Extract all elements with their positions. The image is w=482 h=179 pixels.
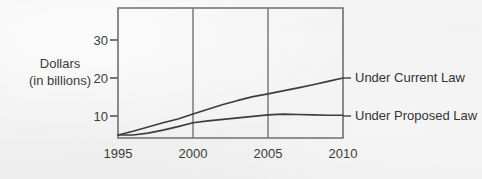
series-label-current-law-group: Under Current Law [343,70,465,85]
x-tick-label-2005: 2005 [254,146,283,161]
x-tick-label-2000: 2000 [179,146,208,161]
chart-canvas: Dollars (in billions) 30 20 10 [0,0,482,179]
y-tick-marks [110,40,118,116]
series-label-proposed-law: Under Proposed Law [355,108,478,123]
x-tick-label-1995: 1995 [104,146,133,161]
series-line-under-proposed-law [118,114,343,135]
series-label-current-law: Under Current Law [355,70,465,85]
x-tick-labels: 1995 2000 2005 2010 [104,146,358,161]
y-tick-label-30: 30 [94,33,108,48]
y-tick-label-10: 10 [94,109,108,124]
y-axis-label-line2: (in billions) [29,73,91,88]
series-line-under-current-law [118,78,343,135]
line-chart-figure: Dollars (in billions) 30 20 10 [0,0,482,179]
y-tick-label-20: 20 [94,71,108,86]
y-tick-labels: 30 20 10 [94,33,108,124]
series-label-proposed-law-group: Under Proposed Law [343,108,478,123]
y-axis-label: Dollars (in billions) [29,56,91,88]
x-tick-label-2010: 2010 [329,146,358,161]
y-axis-label-line1: Dollars [40,56,81,71]
